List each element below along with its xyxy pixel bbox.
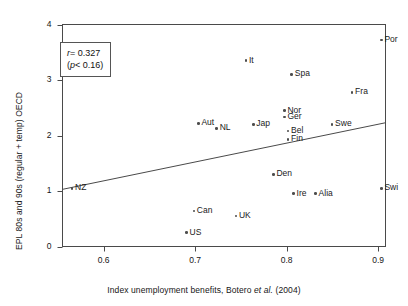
y-tick-label: 0	[30, 241, 52, 251]
data-point-label: Jap	[256, 118, 270, 128]
data-point-marker	[283, 109, 286, 112]
data-point-marker	[252, 123, 255, 126]
data-point-label: Den	[276, 168, 292, 178]
x-tick-label: 0.6	[89, 255, 119, 265]
y-tick-label: 3	[30, 74, 52, 84]
data-point-label: It	[249, 55, 254, 65]
data-point-label: UK	[239, 210, 251, 220]
x-tick-label: 0.7	[180, 255, 210, 265]
r-value-text: = 0.327	[70, 48, 100, 58]
data-point-label: Fin	[291, 133, 303, 143]
x-tick-label: 0.9	[363, 255, 393, 265]
data-point-label: NZ	[75, 182, 86, 192]
x-axis-tick-marks	[105, 247, 379, 252]
data-point-label: Swe	[335, 118, 352, 128]
p-value-text: < 0.16)	[75, 60, 103, 70]
correlation-r-row: r= 0.327	[67, 47, 103, 59]
data-point-label: Swi	[384, 182, 398, 192]
data-point-marker	[197, 122, 200, 125]
data-point-label: Spa	[295, 68, 310, 78]
correlation-annotation-box: r= 0.327 (p< 0.16)	[60, 42, 111, 77]
correlation-p-row: (p< 0.16)	[67, 59, 103, 71]
data-point-label: US	[189, 227, 201, 237]
data-point-label: Fra	[355, 86, 368, 96]
data-point-marker	[245, 59, 248, 62]
data-point-marker	[314, 192, 317, 195]
data-point-marker	[331, 123, 334, 126]
scatter-plot-figure: EPL 80s and 90s (regular + temp) OECD In…	[0, 0, 408, 306]
data-point-marker	[292, 192, 295, 195]
data-point-label: Can	[197, 205, 213, 215]
y-tick-label: 1	[30, 185, 52, 195]
data-point-marker	[215, 127, 218, 130]
trend-line	[63, 123, 386, 190]
data-point-label: Alia	[319, 188, 333, 198]
y-tick-label: 2	[30, 130, 52, 140]
data-point-marker	[290, 73, 293, 76]
data-point-label: Ger	[287, 111, 301, 121]
data-point-label: Aut	[201, 117, 214, 127]
data-point-label: NL	[220, 122, 231, 132]
data-point-label: Por	[384, 34, 397, 44]
data-point-marker	[380, 187, 383, 190]
y-tick-label: 4	[30, 19, 52, 29]
data-point-marker	[272, 173, 275, 176]
data-point-label: Ire	[297, 188, 307, 198]
data-point-marker	[185, 231, 188, 234]
x-tick-label: 0.8	[272, 255, 302, 265]
